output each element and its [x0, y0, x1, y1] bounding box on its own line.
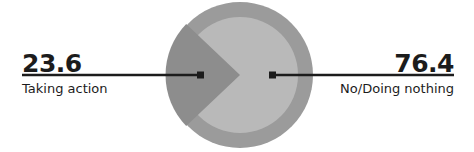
value-doing-nothing: 76.4: [394, 51, 454, 76]
label-doing-nothing: No/Doing nothing: [340, 82, 454, 95]
label-taking-action: Taking action: [22, 82, 108, 95]
leader-marker-right: [269, 72, 276, 79]
value-taking-action: 23.6: [22, 51, 82, 76]
leader-marker-left: [197, 72, 204, 79]
